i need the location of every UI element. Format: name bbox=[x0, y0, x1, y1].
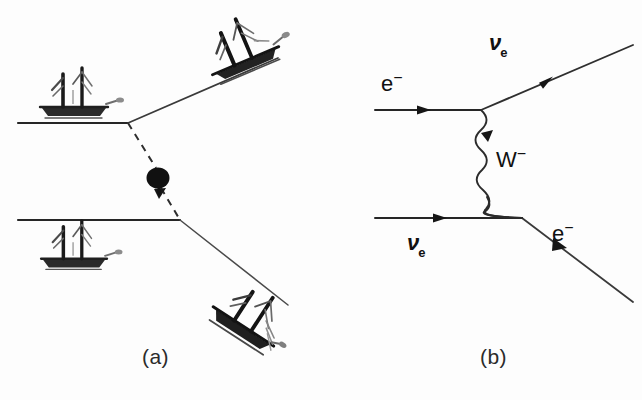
panel-a-ship-analogy-diagram: (a) bbox=[0, 0, 321, 400]
ship-upper-left-icon bbox=[40, 68, 124, 118]
label-neutrino-outgoing-subscript: e bbox=[500, 45, 507, 60]
panel-b-feynman-diagram: e− νe W− νe e− (b) bbox=[321, 0, 642, 400]
arrow-electron-incoming-icon bbox=[417, 106, 431, 115]
ship-lower-left-icon bbox=[41, 221, 122, 270]
label-electron-outgoing: e− bbox=[552, 222, 574, 245]
label-w-boson: W− bbox=[496, 148, 526, 171]
label-neutrino-outgoing: νe bbox=[489, 32, 508, 56]
arrow-neutrino-incoming-icon bbox=[433, 214, 447, 223]
arrow-w-boson-icon bbox=[481, 130, 493, 142]
line-outgoing-lower bbox=[180, 220, 288, 305]
line-exchange-upper-dashed bbox=[128, 123, 156, 168]
line-exchange-lower-dashed bbox=[161, 188, 180, 220]
label-electron-incoming-symbol: e bbox=[381, 71, 393, 96]
arrow-neutrino-outgoing-icon bbox=[539, 77, 553, 89]
label-neutrino-incoming-subscript: e bbox=[418, 245, 425, 260]
panel-a-caption: (a) bbox=[0, 345, 316, 369]
label-electron-outgoing-superscript: − bbox=[564, 219, 573, 236]
label-w-boson-superscript: − bbox=[517, 145, 526, 162]
label-electron-incoming-superscript: − bbox=[393, 69, 402, 86]
line-outgoing-upper bbox=[128, 58, 278, 123]
panel-a-canvas bbox=[0, 0, 321, 400]
line-w-boson-wavy-tail bbox=[484, 197, 522, 218]
label-w-boson-symbol: W bbox=[496, 147, 517, 172]
panel-b-canvas bbox=[321, 0, 642, 400]
line-electron-outgoing bbox=[522, 218, 633, 302]
interaction-blob bbox=[147, 168, 170, 189]
label-electron-incoming: e− bbox=[381, 72, 403, 95]
figure-root: (a) e− νe bbox=[0, 0, 642, 400]
panel-b-caption: (b) bbox=[333, 345, 642, 369]
label-neutrino-incoming: νe bbox=[407, 232, 426, 256]
ship-upper-right-icon bbox=[196, 2, 297, 86]
label-electron-outgoing-symbol: e bbox=[552, 221, 564, 246]
